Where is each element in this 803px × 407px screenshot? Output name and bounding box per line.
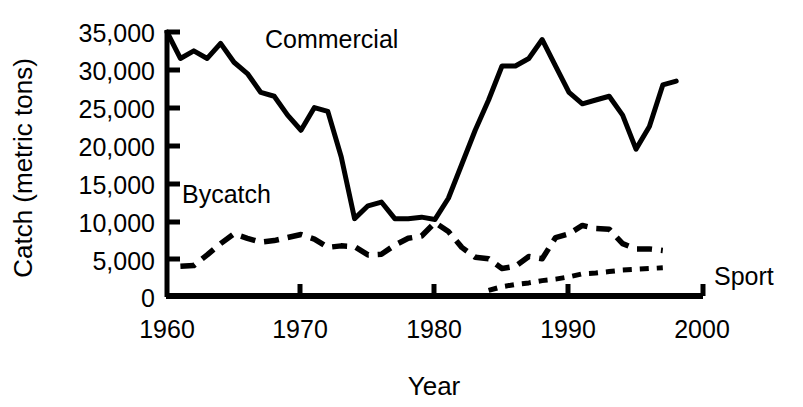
y-tick-label: 15,000 [79, 171, 155, 199]
y-tick-label: 5,000 [92, 247, 155, 275]
series-layer [167, 32, 676, 290]
y-tick-label: 25,000 [79, 95, 155, 123]
x-tick-labels: 1960 1970 1980 1990 2000 [139, 315, 730, 343]
series-label-commercial: Commercial [265, 25, 398, 53]
x-axis-title-text: Year [408, 371, 461, 401]
series-line-bycatch [180, 222, 662, 268]
series-annotations: Commercial Bycatch Sport [182, 25, 774, 290]
series-label-sport: Sport [714, 262, 774, 290]
series-label-bycatch: Bycatch [182, 180, 271, 208]
y-axis-title-text: Catch (metric tons) [8, 58, 38, 278]
y-tick-label: 20,000 [79, 133, 155, 161]
y-tick-labels: 35,000 30,000 25,000 20,000 15,000 10,00… [79, 19, 155, 312]
chart-container: Catch (metric tons) 35,000 30,000 25,000… [0, 0, 803, 407]
y-tick-label: 30,000 [79, 57, 155, 85]
fisheries-catch-line-chart: Catch (metric tons) 35,000 30,000 25,000… [0, 0, 803, 407]
x-tick-label: 1960 [139, 315, 195, 343]
y-tick-label: 35,000 [79, 19, 155, 47]
y-axis-title: Catch (metric tons) [8, 58, 38, 278]
y-tick-label: 0 [141, 284, 155, 312]
x-tick-label: 1980 [406, 315, 462, 343]
x-tick-label: 2000 [674, 315, 730, 343]
x-tick-label: 1990 [540, 315, 596, 343]
x-tick-label: 1970 [272, 315, 328, 343]
series-line-sport [489, 268, 663, 291]
y-tick-label: 10,000 [79, 209, 155, 237]
